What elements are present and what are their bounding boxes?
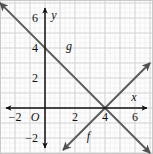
origin-label: O: [31, 110, 40, 124]
y-tick-label-2: 2: [32, 71, 38, 85]
coordinate-plane: −2246−2246 gf O x y: [0, 0, 153, 154]
x-tick-label-neg2: −2: [9, 110, 22, 124]
y-tick-label-neg2: −2: [25, 131, 38, 145]
x-tick-label-6: 6: [132, 110, 138, 124]
y-axis-label: y: [50, 8, 57, 22]
x-axis-label: x: [130, 90, 137, 104]
x-tick-label-4: 4: [102, 110, 108, 124]
series-label-g: g: [66, 39, 72, 53]
x-tick-label-2: 2: [72, 110, 78, 124]
graph-figure: −2246−2246 gf O x y: [0, 0, 153, 154]
y-tick-label-4: 4: [32, 41, 38, 55]
y-tick-label-6: 6: [32, 11, 38, 25]
